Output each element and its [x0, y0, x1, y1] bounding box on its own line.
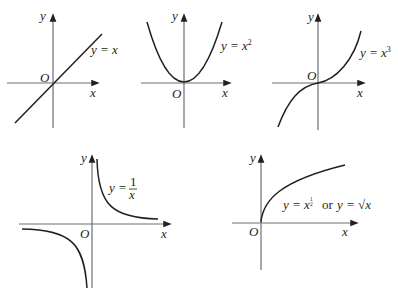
x-axis-label: x — [356, 85, 363, 100]
curve-sqrt — [261, 165, 345, 222]
equation-label: y = x3 — [358, 45, 391, 60]
panel-sqrt: y O x y = x 1 2 or y = √x — [232, 150, 371, 270]
equation-label: y = 1 x — [107, 174, 137, 202]
x-axis-label: x — [341, 224, 348, 239]
origin-label: O — [307, 68, 317, 83]
x-axis-label: x — [160, 226, 167, 241]
y-axis-label: y — [170, 8, 178, 23]
exponent-denominator: 2 — [310, 201, 313, 207]
fraction-denominator: x — [128, 187, 135, 202]
x-axis-label: x — [89, 85, 96, 100]
y-axis-label: y — [38, 8, 46, 23]
origin-label: O — [172, 86, 182, 101]
svg-text:y =: y = — [107, 180, 127, 195]
panel-cube: y O x y = x3 — [272, 9, 391, 130]
panel-reciprocal: y O x y = 1 x — [19, 150, 170, 288]
svg-text:or: or — [322, 197, 334, 212]
equation-label: y = x 1 2 or y = √x — [281, 196, 371, 212]
curve-reciprocal-negative — [22, 229, 87, 288]
svg-text:y = x: y = x — [281, 197, 310, 212]
curve-linear — [15, 34, 102, 123]
x-axis-label: x — [221, 85, 228, 100]
panel-linear: y O x y = x — [7, 8, 118, 128]
y-axis-label: y — [248, 150, 256, 165]
svg-text:y = √x: y = √x — [335, 197, 371, 212]
origin-label: O — [40, 70, 50, 85]
y-axis-label: y — [79, 150, 87, 165]
equation-label: y = x2 — [219, 38, 252, 53]
origin-label: O — [80, 226, 90, 241]
origin-label: O — [249, 224, 259, 239]
curve-reciprocal-positive — [97, 159, 158, 219]
y-axis-label: y — [306, 9, 314, 24]
curve-cube — [278, 31, 361, 127]
power-functions-diagram: y O x y = x y O x y = x2 y O x y = x3 y … — [0, 0, 398, 288]
equation-label: y = x — [89, 42, 118, 57]
panel-square: y O x y = x2 — [141, 8, 252, 128]
